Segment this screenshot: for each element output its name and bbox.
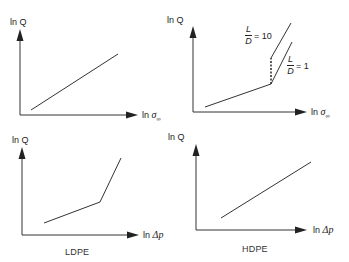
x-axis-arrow-icon: [127, 232, 139, 239]
x-label-subscript: ∞: [156, 116, 160, 122]
y-axis-arrow-icon: [19, 147, 26, 159]
fraction-numerator: L: [287, 55, 294, 66]
branch-value: = 1: [296, 61, 309, 71]
branch-label-ld1: L D = 1: [287, 55, 309, 76]
x-axis-label: ln σ∞: [142, 110, 161, 122]
y-axis-arrow-icon: [17, 29, 24, 41]
x-axis-arrow-icon: [295, 109, 307, 116]
x-axis-label: ln Δp: [143, 230, 163, 240]
curve-top-left: [31, 54, 118, 110]
fraction: L D: [245, 25, 252, 46]
y-label-text: ln Q: [167, 15, 184, 25]
diagram-canvas: [0, 0, 349, 262]
fraction-denominator: D: [245, 36, 252, 46]
panel-bottom-left-axes: [22, 157, 128, 235]
y-label-text: ln Q: [10, 17, 27, 27]
fraction: L D: [287, 55, 294, 76]
x-label-symbol: Δp: [153, 229, 164, 240]
y-axis-label: ln Q: [167, 16, 184, 25]
x-label-prefix: ln: [142, 110, 149, 120]
panel-top-left-axes: [20, 38, 128, 115]
fraction-denominator: D: [287, 66, 294, 76]
caption-hdpe: HDPE: [242, 244, 268, 254]
y-axis-label: ln Q: [10, 18, 27, 27]
x-axis-arrow-icon: [126, 112, 138, 119]
y-axis-label: ln Q: [168, 133, 185, 142]
caption-ldpe: LDPE: [65, 247, 89, 257]
x-axis-label: ln σ∞: [311, 107, 330, 119]
branch-label-ld10: L D = 10: [245, 25, 272, 46]
y-axis-arrow-icon: [190, 26, 197, 38]
curve-ldpe: [44, 158, 121, 223]
y-axis-label: ln Q: [12, 136, 29, 145]
panel-top-right-axes: [193, 36, 296, 112]
x-axis-arrow-icon: [295, 227, 307, 234]
x-label-prefix: ln: [143, 230, 150, 240]
branch-value: = 10: [254, 31, 272, 41]
x-label-prefix: ln: [313, 225, 320, 235]
y-label-text: ln Q: [168, 132, 185, 142]
x-label-prefix: ln: [311, 107, 318, 117]
fraction-numerator: L: [245, 25, 252, 36]
panel-bottom-right-axes: [196, 154, 296, 230]
x-label-subscript: ∞: [325, 113, 329, 119]
x-axis-label: ln Δp: [313, 225, 333, 235]
y-label-text: ln Q: [12, 135, 29, 145]
curve-hdpe: [221, 162, 311, 218]
x-label-symbol: Δp: [323, 224, 334, 235]
y-axis-arrow-icon: [193, 144, 200, 156]
